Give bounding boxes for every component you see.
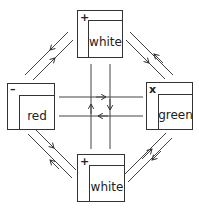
x-icon: x	[149, 84, 156, 95]
node-label: red	[27, 103, 47, 123]
arrow-top-to-left	[50, 38, 62, 50]
arrow-bottom-to-right	[142, 149, 152, 159]
node-right-green: x green	[146, 82, 193, 130]
node-inner: red	[19, 95, 54, 129]
node-left-red: – red	[7, 83, 55, 130]
edge-bottom-right-outer	[125, 133, 166, 174]
arrow-right-to-bottom	[152, 151, 161, 160]
node-label: white	[91, 174, 124, 194]
node-label: white	[89, 29, 122, 49]
state-diagram: + white – red x green + white	[0, 0, 199, 216]
arrow-right-to-top	[154, 54, 163, 63]
edge-bottom-left-inner	[33, 127, 76, 170]
arrow-left-to-bottom	[44, 138, 54, 148]
node-bottom-white: + white	[77, 154, 125, 202]
plus-icon: +	[80, 156, 89, 167]
node-label: green	[158, 102, 193, 122]
node-top-white: + white	[77, 10, 123, 58]
arrow-left-to-top	[45, 58, 55, 68]
arrow-bottom-to-left	[50, 160, 59, 169]
edge-bottom-left-outer	[28, 134, 72, 178]
edge-top-right-outer	[130, 32, 173, 75]
node-inner: green	[158, 94, 192, 129]
edge-bottom-right-inner	[128, 138, 172, 182]
node-inner: white	[89, 165, 124, 201]
minus-icon: –	[10, 84, 16, 95]
node-inner: white	[88, 20, 122, 57]
arrow-top-to-right	[140, 54, 149, 63]
